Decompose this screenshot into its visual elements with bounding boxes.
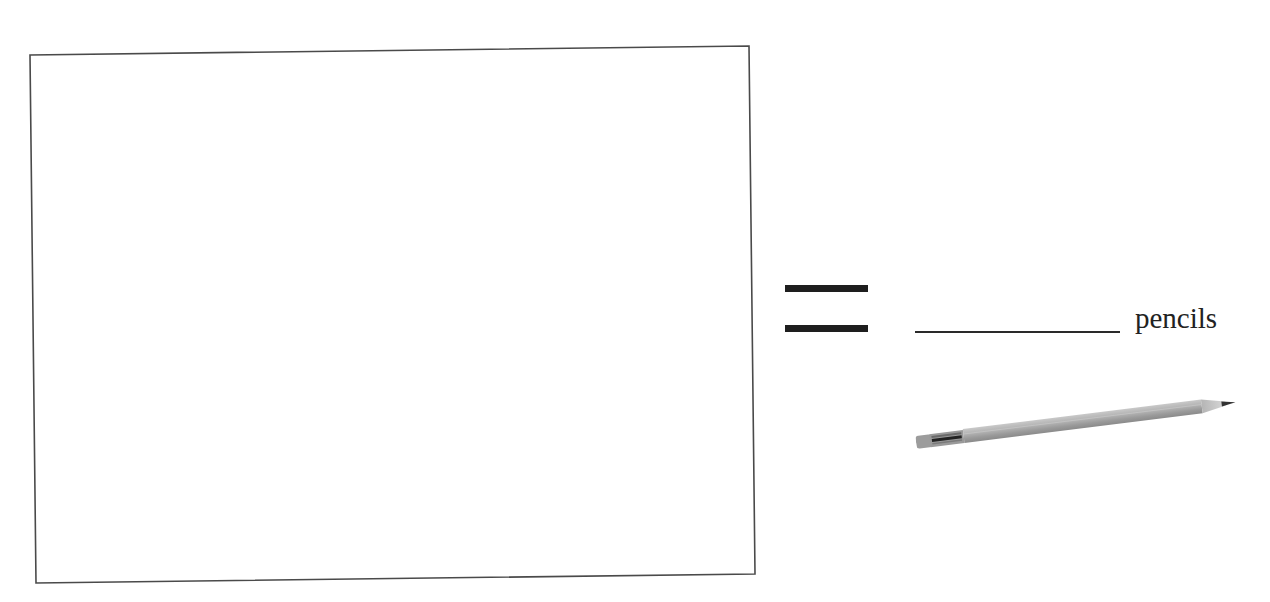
answer-blank[interactable] (915, 331, 1120, 333)
equals-sign-top-bar (785, 285, 868, 292)
unit-label: pencils (1135, 300, 1217, 336)
drawing-box[interactable] (0, 0, 1270, 602)
equals-sign-bottom-bar (785, 325, 868, 332)
